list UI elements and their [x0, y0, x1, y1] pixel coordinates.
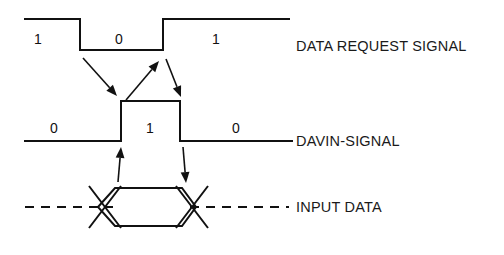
signal-group-data-request-signal: 1 0 1 DATA REQUEST SIGNAL: [25, 19, 467, 54]
bit-label: 0: [232, 120, 240, 136]
waveform-davin-signal: [25, 101, 292, 141]
signal-group-input-data: INPUT DATA: [25, 186, 382, 228]
signal-label-davin-signal: DAVIN-SIGNAL: [296, 133, 400, 149]
arrow-head-icon: [173, 85, 181, 97]
arrow-shaft: [183, 147, 185, 172]
bit-label: 1: [146, 120, 154, 136]
waveform-data-request-signal: [25, 19, 289, 50]
signal-label-input-data: INPUT DATA: [296, 199, 382, 215]
annotation-arrow-layer: [83, 58, 189, 183]
annotation-arrow: [166, 59, 181, 97]
bit-label: 0: [115, 31, 123, 47]
timing-diagram: 1 0 1 DATA REQUEST SIGNAL 0 1 0 DAVIN-SI…: [0, 0, 504, 255]
annotation-arrow: [83, 58, 117, 96]
arrow-shaft: [83, 58, 110, 88]
bus-transition-x-right-icon: [176, 186, 208, 228]
arrow-shaft: [126, 69, 152, 100]
bit-label: 1: [212, 31, 220, 47]
bit-label: 1: [34, 31, 42, 47]
diagram-canvas: 1 0 1 DATA REQUEST SIGNAL 0 1 0 DAVIN-SI…: [0, 0, 504, 255]
signal-group-davin-signal: 0 1 0 DAVIN-SIGNAL: [25, 101, 400, 149]
annotation-arrow: [181, 147, 190, 183]
bit-label: 0: [50, 120, 58, 136]
arrow-shaft: [166, 59, 177, 87]
signal-label-data-request-signal: DATA REQUEST SIGNAL: [296, 38, 467, 54]
arrow-head-icon: [116, 147, 125, 158]
annotation-arrow: [126, 61, 159, 100]
arrow-head-icon: [181, 172, 190, 183]
arrow-shaft: [118, 158, 120, 182]
annotation-arrow: [116, 147, 125, 182]
